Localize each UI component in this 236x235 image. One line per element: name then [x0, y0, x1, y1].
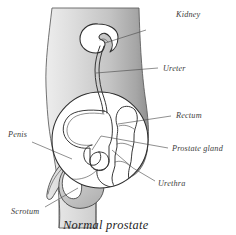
label-penis: Penis	[7, 130, 27, 139]
figure-caption: Normal prostate	[62, 218, 149, 232]
anatomy-illustration: Kidney Ureter Rectum Prostate gland Uret…	[0, 0, 236, 235]
label-ureter: Ureter	[163, 64, 186, 73]
label-kidney: Kidney	[175, 10, 201, 19]
anatomy-figure: Kidney Ureter Rectum Prostate gland Uret…	[0, 0, 236, 235]
label-prostate-gland: Prostate gland	[171, 144, 224, 153]
label-rectum: Rectum	[175, 111, 202, 120]
label-urethra: Urethra	[158, 179, 185, 188]
label-scrotum: Scrotum	[11, 207, 39, 216]
